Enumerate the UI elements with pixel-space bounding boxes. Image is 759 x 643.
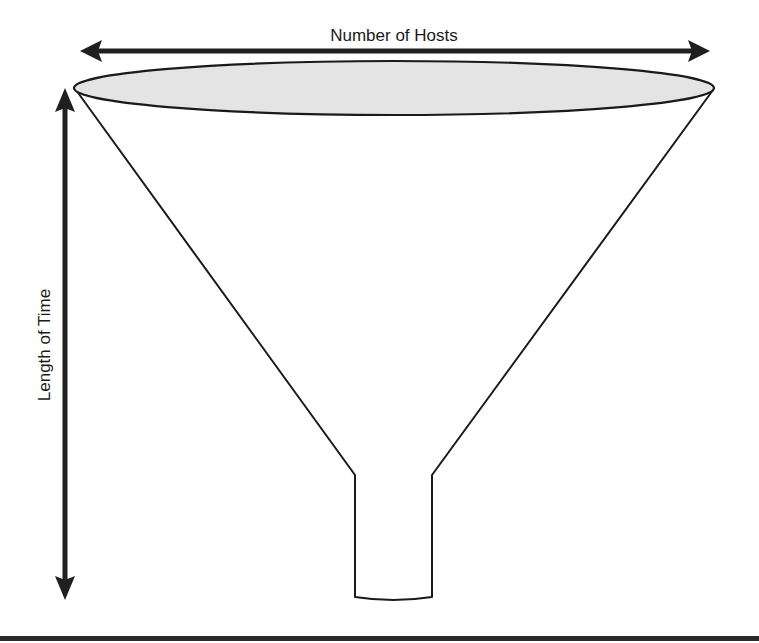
bottom-divider xyxy=(0,636,759,641)
funnel-diagram: Number of Hosts Length of Time xyxy=(0,0,759,643)
number-of-hosts-label: Number of Hosts xyxy=(330,26,458,45)
funnel-shape xyxy=(74,61,714,600)
funnel-mouth xyxy=(74,61,714,115)
vertical-double-arrow-icon xyxy=(55,88,75,600)
length-of-time-label: Length of Time xyxy=(35,289,54,401)
